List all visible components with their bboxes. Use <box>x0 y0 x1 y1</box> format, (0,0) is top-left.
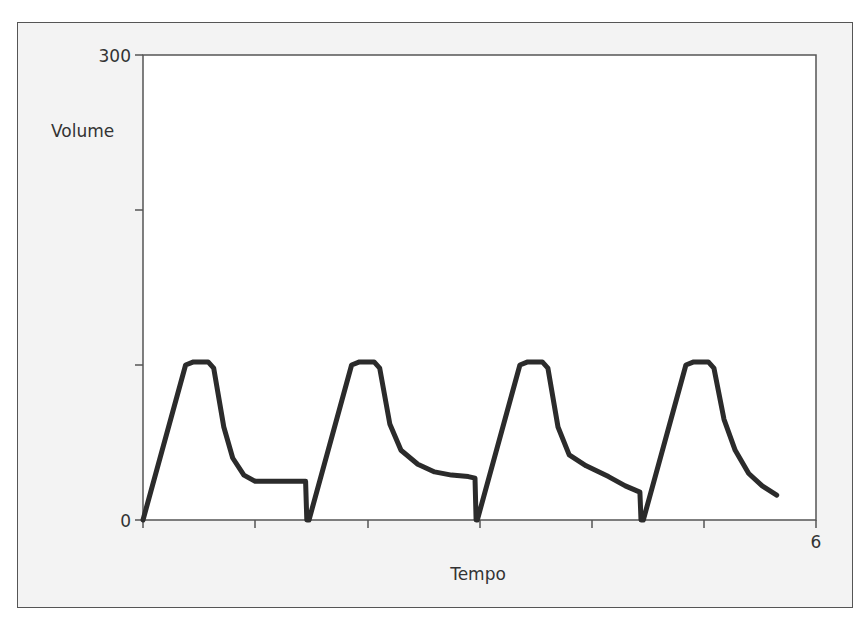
y-axis-title: Volume <box>51 121 114 141</box>
x-tick-label-6: 6 <box>811 532 822 552</box>
y-tick-label-300: 300 <box>99 46 131 66</box>
plot-area <box>143 55 816 520</box>
x-axis-title: Tempo <box>449 564 506 584</box>
y-axis-ticks <box>135 55 143 520</box>
volume-time-chart: 300 0 6 Volume Tempo <box>0 0 868 621</box>
x-axis-ticks <box>143 520 816 528</box>
y-tick-label-0: 0 <box>120 511 131 531</box>
